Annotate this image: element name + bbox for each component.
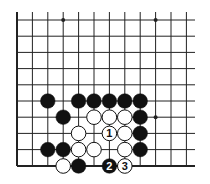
- white-stone: [71, 126, 86, 141]
- black-stone: [41, 94, 56, 109]
- white-stone: [118, 142, 133, 157]
- white-stone-3: 3: [118, 159, 133, 174]
- go-board: 123: [0, 0, 210, 184]
- star-point: [61, 18, 65, 22]
- black-stone: [87, 94, 102, 109]
- black-stone: [133, 110, 148, 125]
- black-stone: [102, 94, 117, 109]
- white-stone: [118, 126, 133, 141]
- black-stone: [133, 142, 148, 157]
- black-stone: [56, 110, 71, 125]
- star-point: [154, 18, 158, 22]
- black-stone: [71, 94, 86, 109]
- black-stone: [133, 126, 148, 141]
- black-stone: [41, 142, 56, 157]
- black-stone: [56, 142, 71, 157]
- black-stone: [118, 94, 133, 109]
- black-stone: [133, 94, 148, 109]
- move-number: 1: [106, 127, 112, 139]
- white-stone: [102, 110, 117, 125]
- black-stone-2: 2: [102, 159, 117, 174]
- white-stone-1: 1: [102, 126, 117, 141]
- white-stone: [87, 142, 102, 157]
- grid-lines: [17, 12, 195, 166]
- move-number: 2: [106, 160, 112, 172]
- white-stone: [56, 159, 71, 174]
- move-number: 3: [122, 160, 128, 172]
- black-stone: [71, 159, 86, 174]
- white-stone: [71, 142, 86, 157]
- white-stone: [87, 110, 102, 125]
- white-stone: [118, 110, 133, 125]
- star-point: [154, 115, 158, 119]
